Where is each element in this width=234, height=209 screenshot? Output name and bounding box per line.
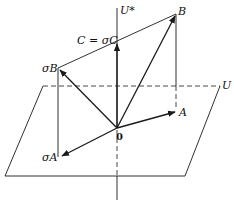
label-origin: 0 [116,131,123,142]
vector-a [117,112,175,128]
plane-right-edge [185,86,220,176]
vector-b [117,16,175,128]
label-u: U [222,79,232,92]
label-sigma-a: σA [42,151,58,164]
label-b: B [177,5,186,18]
label-a: A [178,106,187,119]
vector-sigma-b [60,70,117,128]
vector-sigma-a [62,128,117,156]
label-sigma-b: σB [42,62,58,75]
plane-left-edge [5,86,43,176]
label-c: C = σC [77,34,118,47]
reflection-diagram: U* B C = σC σB U A 0 σA [0,0,234,209]
label-u-star: U* [120,4,135,17]
